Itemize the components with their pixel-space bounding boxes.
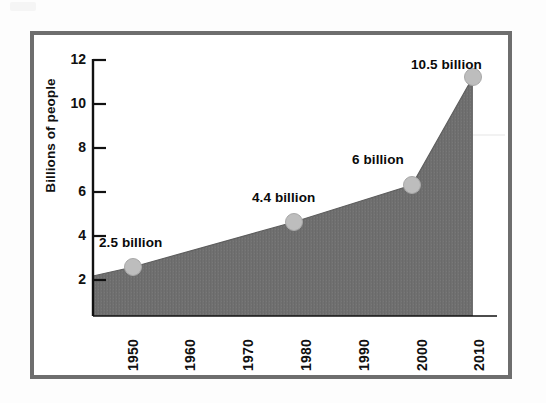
x-tick-label-2010: 2010	[471, 328, 487, 382]
x-tick-label-1980: 1980	[298, 328, 314, 382]
y-tick-label-12: 12	[60, 52, 86, 66]
x-tick-label-1960: 1960	[182, 328, 198, 382]
y-tick-label-2: 2	[60, 272, 86, 286]
data-point-marker-1980[interactable]	[286, 214, 303, 231]
x-tick-label-2000: 2000	[414, 328, 430, 382]
data-point-marker-1950[interactable]	[125, 259, 142, 276]
y-axis-title: Billions of people	[43, 56, 58, 216]
x-tick-label-1990: 1990	[356, 328, 372, 382]
y-tick-label-6: 6	[60, 184, 86, 198]
x-tick-label-1970: 1970	[240, 328, 256, 382]
y-tick-label-4: 4	[60, 228, 86, 242]
x-tick-label-1950: 1950	[125, 328, 141, 382]
data-label-2000: 6 billion	[352, 152, 404, 167]
y-tick-label-8: 8	[60, 140, 86, 154]
y-tick-label-10: 10	[60, 96, 86, 110]
data-point-marker-2000[interactable]	[404, 177, 421, 194]
data-label-2010: 10.5 billion	[411, 57, 482, 72]
data-label-1980: 4.4 billion	[252, 190, 315, 205]
scanned-page: Billions of people 12 10 8 6 4 2 1950 19…	[0, 0, 546, 403]
data-label-1950: 2.5 billion	[99, 235, 162, 250]
population-area-chart: Billions of people 12 10 8 6 4 2 1950 19…	[0, 0, 546, 403]
